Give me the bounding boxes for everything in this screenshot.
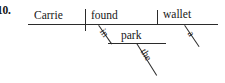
article-the-word: the [139, 47, 154, 63]
exercise-number: 10. [0, 5, 11, 17]
verb-word: found [91, 10, 118, 22]
diagram-baseline [28, 24, 218, 25]
verb-direct-object-divider-line [157, 10, 158, 24]
preposition-object-word: park [121, 30, 141, 42]
subject-word: Carrie [34, 10, 63, 22]
direct-object-word: wallet [163, 9, 191, 21]
sentence-diagram-canvas: 10. Carrie found wallet park in the a [0, 0, 225, 83]
subject-verb-divider-line [85, 9, 86, 31]
